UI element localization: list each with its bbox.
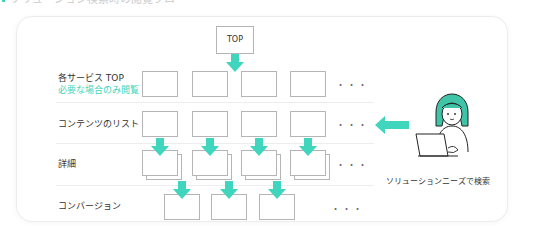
arrow-down-icon (268, 181, 286, 199)
arrow-down-icon (151, 138, 169, 156)
ellipsis: ・・・ (336, 78, 369, 91)
top-node: TOP (216, 26, 254, 54)
row-label-content-list: コンテンツのリスト (58, 118, 139, 130)
user-caption: ソリューションニーズで検索 (386, 175, 490, 186)
ellipsis: ・・・ (336, 118, 369, 131)
title-accent-mark (2, 0, 5, 2)
title-text: ソリューション検索時の閲覧フロー (10, 0, 186, 6)
service-top-box (142, 71, 178, 97)
woman-with-laptop-icon (414, 90, 494, 170)
row-label-detail: 詳細 (58, 158, 76, 170)
row-divider (56, 185, 374, 186)
arrow-down-icon (173, 181, 191, 199)
content-list-box (192, 111, 228, 137)
arrow-down-icon (299, 138, 317, 156)
row-sublabel-optional: 必要な場合のみ閲覧 (58, 84, 139, 96)
content-list-box (241, 111, 277, 137)
row-label-conversion: コンバージョン (58, 200, 121, 212)
section-title: ソリューション検索時の閲覧フロー (0, 0, 536, 4)
content-list-box (290, 111, 326, 137)
row-divider (56, 102, 374, 103)
service-top-box (290, 71, 326, 97)
ellipsis: ・・・ (331, 202, 364, 215)
arrow-down-icon (201, 138, 219, 156)
arrow-down-icon (226, 54, 244, 72)
row-label-service-top: 各サービス TOP (58, 72, 124, 84)
service-top-box (192, 71, 228, 97)
service-top-box (241, 71, 277, 97)
arrow-down-icon (220, 181, 238, 199)
ellipsis: ・・・ (336, 158, 369, 171)
arrow-down-icon (250, 138, 268, 156)
content-list-box (142, 111, 178, 137)
arrow-left-icon (375, 116, 409, 134)
